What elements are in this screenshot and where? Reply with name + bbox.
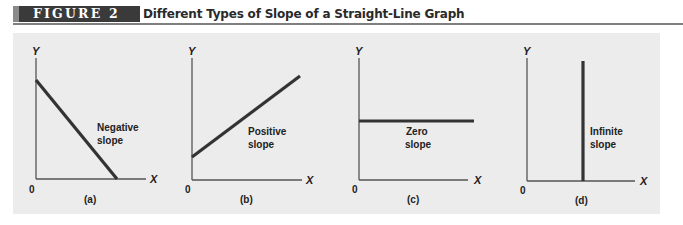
chart-a: Y X 0 Negative slope (a) (29, 45, 158, 205)
panel-caption: (b) (240, 194, 253, 205)
series-label-line2: slope (405, 139, 432, 150)
series-label-line2: slope (97, 135, 124, 146)
positive-slope-line (192, 76, 300, 157)
panel-caption: (a) (84, 194, 96, 205)
series-label-line1: Negative (97, 122, 139, 133)
x-axis-label: X (639, 175, 648, 187)
panel-caption: (d) (575, 195, 588, 206)
origin-label: 0 (185, 184, 191, 195)
x-axis-label: X (473, 174, 482, 186)
series-label-line2: slope (590, 139, 617, 150)
y-axis-label: Y (32, 45, 41, 57)
series-label-line1: Infinite (590, 126, 623, 137)
series-label-line1: Positive (248, 126, 287, 137)
chart-c: Y X 0 Zero slope (c) (352, 45, 482, 205)
y-axis-label: Y (355, 45, 364, 57)
series-label-line2: slope (248, 139, 275, 150)
slope-charts: Y X 0 Negative slope (a) Y X 0 Positive … (0, 0, 683, 225)
origin-label: 0 (29, 184, 35, 195)
origin-label: 0 (520, 185, 526, 196)
panel-caption: (c) (407, 194, 419, 205)
x-axis-label: X (305, 174, 314, 186)
chart-d: Y X 0 Infinite slope (d) (520, 45, 648, 206)
series-label-line1: Zero (406, 126, 428, 137)
origin-label: 0 (352, 184, 358, 195)
y-axis-label: Y (188, 45, 197, 57)
x-axis-label: X (149, 173, 158, 185)
chart-b: Y X 0 Positive slope (b) (185, 45, 314, 205)
y-axis-label: Y (523, 45, 532, 57)
